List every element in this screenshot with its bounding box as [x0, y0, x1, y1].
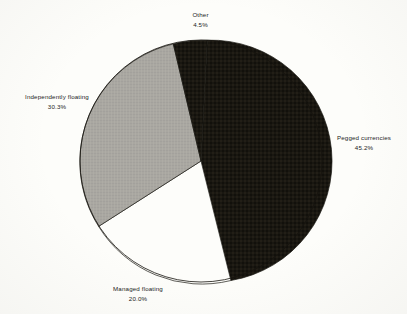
pie-label-independently-floating: Independently floating 30.3%: [6, 92, 108, 111]
pie-label-managed-floating-percent: 20.0%: [86, 294, 190, 304]
pie-chart-figure: Other 4.5% Pegged currencies 45.2% Manag…: [0, 0, 407, 314]
pie-chart-canvas: [0, 0, 407, 314]
pie-label-independently-floating-percent: 30.3%: [6, 102, 108, 112]
pie-label-other-percent: 4.5%: [163, 20, 238, 30]
pie-label-other-name: Other: [163, 10, 238, 20]
pie-label-other: Other 4.5%: [163, 10, 238, 29]
pie-label-managed-floating: Managed floating 20.0%: [86, 284, 190, 303]
pie-label-pegged-currencies-percent: 45.2%: [322, 143, 406, 153]
pie-label-managed-floating-name: Managed floating: [86, 284, 190, 294]
pie-label-pegged-currencies: Pegged currencies 45.2%: [322, 133, 406, 152]
pie-label-pegged-currencies-name: Pegged currencies: [322, 133, 406, 143]
pie-label-independently-floating-name: Independently floating: [6, 92, 108, 102]
